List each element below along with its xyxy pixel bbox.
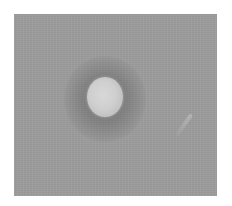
photograph	[14, 14, 217, 196]
image-frame	[0, 0, 232, 206]
bright-spot	[87, 77, 123, 117]
